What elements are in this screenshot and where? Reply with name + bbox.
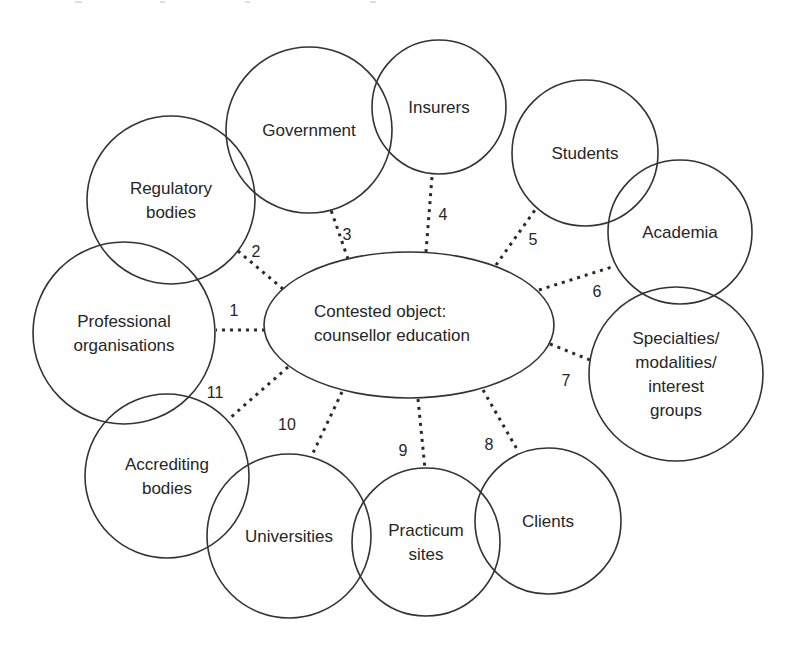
node-label-line: Academia [642,223,718,242]
link-3: 3 [331,210,352,259]
node-label-line: Students [551,144,618,163]
link-4: 4 [426,177,448,252]
node-label: Accreditingbodies [125,455,209,498]
link-9: 9 [399,399,425,469]
node-label-line: interest [648,377,704,396]
dotted-connector [230,367,288,418]
link-2: 2 [238,243,283,289]
node-label: Regulatorybodies [130,179,213,222]
node-academia: Academia [608,160,752,304]
node-students: Students [512,80,658,226]
link-number-label: 10 [278,416,296,433]
node-label: Insurers [408,98,469,117]
node-circle [87,116,255,284]
link-number-label: 2 [252,243,261,260]
dotted-connector [418,399,425,469]
node-insurers: Insurers [372,40,506,174]
node-specialties: Specialties/modalities/interestgroups [589,287,763,461]
node-label-line: Accrediting [125,455,209,474]
node-circle [85,394,249,558]
node-label-line: Government [262,121,356,140]
link-10: 10 [278,392,342,455]
link-number-label: 5 [529,231,538,248]
node-label: Academia [642,223,718,242]
center-layer: Contested object:counsellor education [264,252,554,398]
link-number-label: 4 [439,206,448,223]
link-number-label: 7 [562,372,571,389]
node-label: Government [262,121,356,140]
node-label-line: Clients [522,512,574,531]
node-label: Universities [245,527,333,546]
node-label-line: Universities [245,527,333,546]
link-7: 7 [550,344,590,389]
center-label: Contested object:counsellor education [314,302,470,345]
link-number-label: 1 [230,302,239,319]
link-number-label: 8 [485,436,494,453]
node-label-line: bodies [146,203,196,222]
node-label: Professionalorganisations [73,312,174,355]
link-number-label: 11 [207,384,224,401]
node-label-line: organisations [73,336,174,355]
center-label-line: counsellor education [314,326,470,345]
node-label: Practicumsites [388,521,464,564]
node-label: Clients [522,512,574,531]
node-accrediting-bodies: Accreditingbodies [85,394,249,558]
node-label: Students [551,144,618,163]
link-8: 8 [483,390,518,453]
node-label-line: Specialties/ [633,329,720,348]
node-label: Specialties/modalities/interestgroups [633,329,720,420]
node-label-line: bodies [142,479,192,498]
dotted-connector [312,392,342,455]
link-number-label: 9 [399,442,408,459]
node-circle [589,287,763,461]
center-label-line: Contested object: [314,302,446,321]
node-regulatory-bodies: Regulatorybodies [87,116,255,284]
dotted-connector [539,266,615,290]
dotted-connector [550,344,590,360]
node-label-line: Practicum [388,521,464,540]
node-government: Government [226,47,392,213]
node-label-line: Professional [77,312,171,331]
stakeholder-diagram: 1234567891011 RegulatorybodiesGovernment… [0,0,795,647]
link-number-label: 6 [593,283,602,300]
node-label-line: Insurers [408,98,469,117]
node-label-line: groups [650,401,702,420]
contested-object: Contested object:counsellor education [264,252,554,398]
node-universities: Universities [207,454,371,618]
node-label-line: sites [409,545,444,564]
link-11: 11 [207,367,288,418]
dotted-connector [426,177,432,252]
link-1: 1 [216,302,265,330]
link-5: 5 [496,210,538,265]
node-label-line: modalities/ [635,353,717,372]
dotted-connector [238,251,283,289]
link-6: 6 [539,266,615,300]
link-number-label: 3 [343,226,352,243]
node-label-line: Regulatory [130,179,213,198]
center-ellipse [264,252,554,398]
